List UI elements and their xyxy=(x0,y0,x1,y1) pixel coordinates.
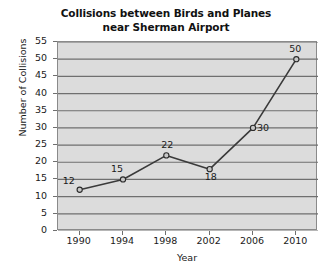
y-tick-label: 45 xyxy=(13,70,47,80)
x-tick-label: 2010 xyxy=(272,235,318,246)
y-tick-label: 25 xyxy=(13,139,47,149)
data-point-label: 18 xyxy=(205,172,217,182)
y-tick-label: 0 xyxy=(13,225,47,235)
y-tick-label: 5 xyxy=(13,208,47,218)
x-tick-label: 1990 xyxy=(56,235,102,246)
x-tick-label: 1998 xyxy=(142,235,188,246)
data-point-label: 22 xyxy=(161,140,173,150)
chart-title: Collisions between Birds and Planes near… xyxy=(0,7,332,34)
x-tick-mark xyxy=(79,231,80,235)
data-point-label: 30 xyxy=(257,123,269,133)
x-axis-title: Year xyxy=(57,252,317,263)
x-tick-mark xyxy=(295,231,296,235)
data-point-marker xyxy=(120,177,125,182)
y-tick-label: 50 xyxy=(13,53,47,63)
y-tick-label: 40 xyxy=(13,88,47,98)
x-tick-mark xyxy=(165,231,166,235)
data-point-label: 12 xyxy=(63,176,75,186)
y-tick-label: 35 xyxy=(13,105,47,115)
y-tick-label: 30 xyxy=(13,122,47,132)
gridlines xyxy=(58,42,318,231)
y-tick-label: 20 xyxy=(13,156,47,166)
x-tick-mark xyxy=(252,231,253,235)
data-point-marker xyxy=(164,153,169,158)
y-tick-label: 55 xyxy=(13,36,47,46)
plot-area xyxy=(57,41,317,230)
data-point-marker xyxy=(250,125,255,130)
x-tick-mark xyxy=(209,231,210,235)
x-tick-label: 1994 xyxy=(99,235,145,246)
data-point-label: 15 xyxy=(111,164,123,174)
line-chart: Collisions between Birds and Planes near… xyxy=(0,0,332,276)
y-tick-label: 15 xyxy=(13,173,47,183)
x-tick-label: 2006 xyxy=(229,235,275,246)
y-tick-label: 10 xyxy=(13,191,47,201)
x-tick-label: 2002 xyxy=(186,235,232,246)
data-point-label: 50 xyxy=(289,44,301,54)
x-tick-mark xyxy=(122,231,123,235)
data-point-marker xyxy=(77,187,82,192)
plot-canvas xyxy=(58,42,318,231)
y-tick-mark xyxy=(53,230,57,231)
data-point-marker xyxy=(294,57,299,62)
